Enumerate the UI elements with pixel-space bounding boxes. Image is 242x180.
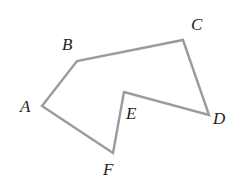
- edge-cd: [183, 40, 209, 115]
- vertex-label-f: F: [102, 160, 114, 179]
- hexagon-diagram: A B C D E F: [0, 0, 242, 180]
- vertex-label-b: B: [62, 35, 73, 54]
- edge-bc: [77, 40, 183, 61]
- vertex-label-a: A: [19, 97, 31, 116]
- polygon-edges: [42, 40, 209, 153]
- vertex-label-e: E: [125, 104, 137, 123]
- polygon-outline: [42, 40, 209, 153]
- edge-ef: [113, 92, 124, 153]
- edge-fa: [42, 106, 113, 153]
- vertex-label-d: D: [212, 109, 226, 128]
- vertex-label-c: C: [191, 15, 203, 34]
- edge-ab: [42, 61, 77, 106]
- edge-de: [124, 92, 209, 115]
